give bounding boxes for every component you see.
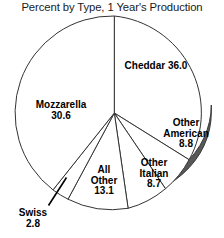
slice-label-other-italian: Other Italian 8.7: [128, 158, 180, 190]
pie-chart-figure: Percent by Type, 1 Year's Production Che…: [0, 0, 224, 238]
slice-label-cheddar-name: Cheddar: [125, 60, 166, 71]
slice-label-swiss-name: Swiss: [6, 208, 60, 219]
slice-label-all-other-line1: All: [77, 165, 131, 176]
slice-label-mozzarella: Mozzarella 30.6: [18, 100, 104, 121]
slice-label-cheddar: Cheddar 36.0: [104, 61, 208, 72]
slice-label-cheddar-value: 36.0: [168, 60, 187, 71]
slice-label-other-italian-value: 8.7: [128, 179, 180, 190]
slice-label-other-italian-line1: Other: [128, 158, 180, 169]
slice-label-swiss: Swiss 2.8: [6, 208, 60, 229]
slice-label-other-american-value: 8.8: [152, 139, 220, 150]
slice-label-mozzarella-name: Mozzarella: [18, 100, 104, 111]
slice-label-all-other-value: 13.1: [77, 186, 131, 197]
slice-label-all-other: All Other 13.1: [77, 165, 131, 197]
slice-label-other-american-line1: Other: [152, 118, 220, 129]
slice-label-other-american: Other American 8.8: [152, 118, 220, 150]
slice-label-mozzarella-value: 30.6: [18, 111, 104, 122]
slice-label-swiss-value: 2.8: [6, 219, 60, 230]
